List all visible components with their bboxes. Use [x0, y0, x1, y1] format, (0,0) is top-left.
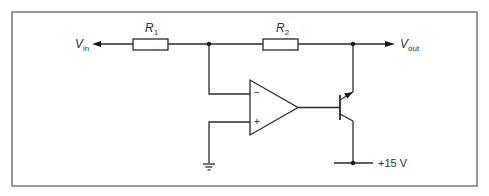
opamp-noninverting-sign: +: [254, 117, 260, 127]
resistor-r2: [263, 39, 298, 50]
vin-input-arrow: [92, 41, 133, 47]
npn-transistor: [340, 44, 353, 163]
vout-output-arrow: [298, 41, 395, 47]
wire-feedback-inverting: [209, 44, 250, 94]
ground-icon: [203, 164, 215, 170]
junction-supply: [351, 161, 355, 165]
circuit-schematic: [0, 0, 489, 196]
resistor-r1: [133, 39, 168, 50]
wire-noninverting-ground: [209, 122, 250, 163]
vout-label: Vout: [400, 38, 419, 53]
r1-label: R1: [145, 22, 158, 37]
emitter-arrow-icon: [344, 92, 353, 99]
opamp-inverting-sign: −: [254, 88, 260, 98]
r2-label: R2: [276, 22, 289, 37]
supply-voltage-label: +15 V: [378, 158, 407, 169]
vin-label: Vin: [75, 38, 89, 53]
